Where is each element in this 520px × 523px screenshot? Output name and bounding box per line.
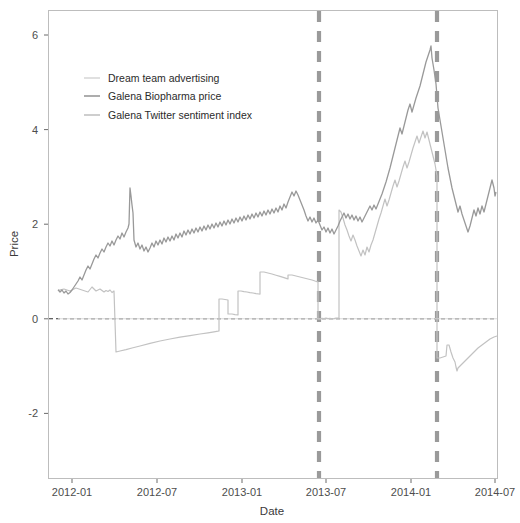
price-sentiment-line-chart: 6 4 2 0 -2 Price 2012-01 2012-07 2013-01… <box>0 0 520 523</box>
y-tick-label-neg2: -2 <box>28 407 38 419</box>
y-axis-title: Price <box>8 231 20 257</box>
chart-container: 6 4 2 0 -2 Price 2012-01 2012-07 2013-01… <box>0 0 520 523</box>
y-tick-label-2: 2 <box>32 218 38 230</box>
x-axis-title: Date <box>260 505 284 517</box>
x-tick-label-2013-07: 2013-07 <box>306 486 346 498</box>
legend-label-galena-twitter-sentiment-index: Galena Twitter sentiment index <box>108 109 253 121</box>
x-tick-label-2013-01: 2013-01 <box>222 486 262 498</box>
y-tick-label-6: 6 <box>32 29 38 41</box>
legend-label-galena-biopharma-price: Galena Biopharma price <box>108 90 221 102</box>
legend-item-galena-twitter-sentiment-index[interactable]: Galena Twitter sentiment index <box>84 109 253 121</box>
x-tick-label-2014-01: 2014-01 <box>391 486 431 498</box>
x-tick-label-2014-07: 2014-07 <box>475 486 515 498</box>
y-tick-label-4: 4 <box>32 124 38 136</box>
x-tick-label-2012-07: 2012-07 <box>137 486 177 498</box>
chart-background <box>0 0 520 523</box>
y-tick-label-0: 0 <box>32 313 38 325</box>
x-tick-label-2012-01: 2012-01 <box>52 486 92 498</box>
legend-label-dream-team-advertising: Dream team advertising <box>108 72 220 84</box>
